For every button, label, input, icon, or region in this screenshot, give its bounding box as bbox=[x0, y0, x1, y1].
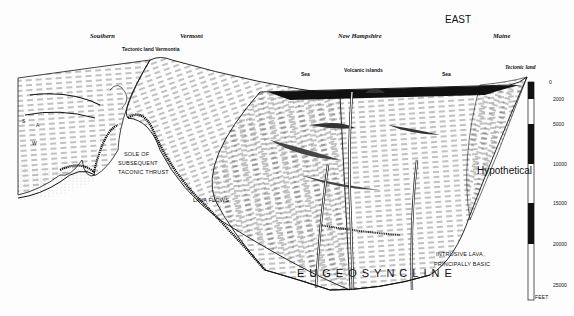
strata-s: S bbox=[22, 118, 26, 124]
label-tectonic-land-east: Tectonic land bbox=[505, 64, 536, 70]
scale-unit: FEET bbox=[535, 294, 549, 300]
label-sea-left: Sea bbox=[301, 71, 310, 77]
strata-w: W bbox=[32, 140, 37, 146]
label-intrusive-line1: INTRUSIVE LAVA, bbox=[436, 251, 485, 257]
scale-tick-10000: 10000 bbox=[553, 161, 567, 167]
scale-tick-2000: 2000 bbox=[553, 96, 564, 102]
label-tectonic-land-vermontia: Tectonic land Vermontia bbox=[122, 46, 179, 52]
diagram-title-eugeosyncline: EUGEOSYNCLINE bbox=[297, 267, 457, 279]
label-sea-right: Sea bbox=[442, 71, 451, 77]
region-southern: Southern bbox=[90, 32, 115, 39]
label-sole-line2: SUBSEQUENT bbox=[118, 160, 158, 166]
scale-tick-20000: 20000 bbox=[553, 241, 567, 247]
scale-tick-0: 0 bbox=[549, 79, 552, 85]
label-volcanic-islands: Volcanic islands bbox=[344, 67, 383, 73]
scale-tick-15000: 15000 bbox=[553, 200, 567, 206]
scale-tick-25000: 25000 bbox=[553, 282, 567, 288]
cross-section-diagram bbox=[0, 0, 574, 316]
region-maine: Maine bbox=[493, 32, 510, 39]
label-lava-flows: LAVA FLOWS bbox=[193, 197, 229, 203]
southern-vermont-block bbox=[18, 60, 150, 200]
eugeosyncline-basin bbox=[212, 77, 527, 290]
strata-a: A bbox=[36, 122, 40, 128]
label-sole-line1: SOLE OF bbox=[124, 151, 149, 157]
label-hypothetical: Hypothetical bbox=[477, 165, 532, 176]
depth-scale-bar bbox=[528, 82, 534, 300]
region-new-hampshire: New Hampshire bbox=[338, 32, 382, 39]
direction-label: EAST bbox=[445, 14, 471, 25]
scale-tick-5000: 5000 bbox=[553, 121, 564, 127]
region-vermont: Vermont bbox=[180, 32, 203, 39]
label-sole-line3: TACONIC THRUST bbox=[118, 169, 169, 175]
